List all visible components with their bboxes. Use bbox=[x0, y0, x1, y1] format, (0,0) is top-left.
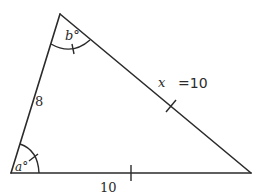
side-right bbox=[60, 14, 251, 173]
angle-label-b: b° bbox=[65, 28, 80, 43]
side-label-left: 8 bbox=[35, 94, 43, 109]
side-label-right-variable: x bbox=[158, 75, 166, 90]
side-label-bottom: 10 bbox=[100, 180, 117, 195]
angle-tick-top bbox=[72, 44, 74, 54]
angle-label-a: a° bbox=[15, 160, 28, 174]
triangle-diagram: b° 8 a° 10 x =10 bbox=[0, 0, 261, 196]
side-label-right-annotation: =10 bbox=[178, 75, 208, 91]
